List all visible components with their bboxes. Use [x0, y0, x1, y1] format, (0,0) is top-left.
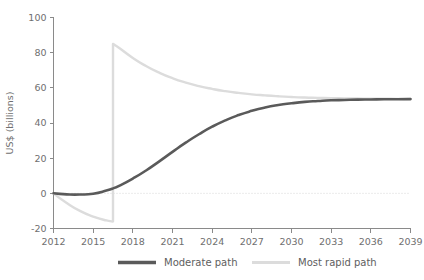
series-line-moderate-path	[54, 99, 411, 195]
y-tick-label: 20	[34, 153, 46, 164]
x-tick-label: 2036	[359, 236, 383, 247]
line-chart: -20020406080100 201220152018202120242027…	[0, 0, 424, 280]
legend-label-1: Most rapid path	[298, 257, 377, 268]
x-tick-label: 2039	[398, 236, 422, 247]
x-tick-label: 2015	[81, 236, 105, 247]
y-tick-label: 100	[28, 12, 46, 23]
y-tick-label: 60	[34, 82, 46, 93]
y-tick-label: 40	[34, 117, 46, 128]
x-tick-label: 2021	[160, 236, 184, 247]
x-tick-label: 2012	[41, 236, 65, 247]
x-tick-label: 2024	[200, 236, 224, 247]
y-tick-label: 0	[40, 188, 46, 199]
chart-container: -20020406080100 201220152018202120242027…	[0, 0, 424, 280]
y-axis-title-text: US$ (billions)	[4, 92, 15, 155]
series-line-most-rapid-path	[54, 44, 411, 222]
y-tick-label: 80	[34, 47, 46, 58]
series-lines	[54, 44, 411, 222]
y-tick-label: -20	[31, 223, 47, 234]
y-axis-title: US$ (billions)	[4, 92, 15, 155]
legend-label-0: Moderate path	[164, 257, 237, 268]
chart-legend: Moderate pathMost rapid path	[118, 257, 377, 268]
y-axis: -20020406080100	[28, 12, 53, 234]
x-tick-label: 2027	[240, 236, 264, 247]
x-tick-label: 2018	[121, 236, 145, 247]
x-axis: 2012201520182021202420272030203320362039	[41, 229, 422, 247]
x-tick-label: 2030	[279, 236, 303, 247]
x-tick-label: 2033	[319, 236, 343, 247]
